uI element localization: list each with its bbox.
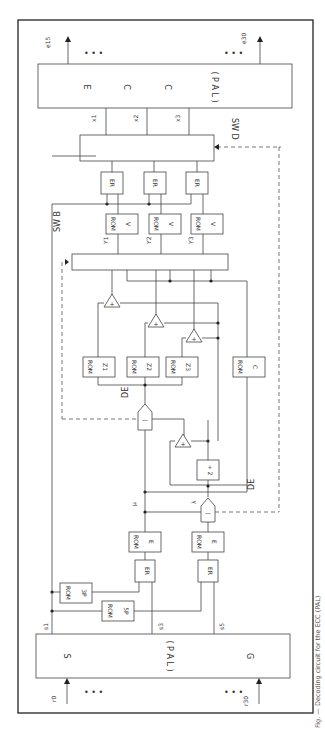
rom-5p: ROM5P: [102, 601, 134, 621]
output-ellipsis-right: • • •: [224, 49, 243, 58]
svg-text:÷ 2: ÷ 2: [207, 465, 214, 476]
svg-text:5P: 5P: [123, 607, 130, 615]
svg-text:ER: ER: [109, 179, 116, 187]
sg-pal-paren: ( P A L ): [165, 640, 174, 671]
svg-text:ROM: ROM: [65, 586, 72, 600]
x3-label: x3: [174, 114, 181, 122]
svg-text:ROM: ROM: [110, 217, 117, 231]
diagram-frame: [18, 20, 313, 713]
de-label-lower: DE: [247, 479, 256, 490]
svg-text:E: E: [211, 540, 218, 544]
swb-label: SW B: [53, 211, 62, 232]
rom-e-1: ROME: [129, 532, 161, 552]
svg-text:+: +: [110, 300, 115, 307]
svg-text:ROM: ROM: [237, 360, 244, 374]
er-block-s5: ER: [198, 560, 218, 582]
s5-label: s5: [218, 623, 225, 630]
de-label-upper: DE: [121, 387, 130, 398]
svg-text:+: +: [181, 440, 186, 447]
rom-z3: ROMZ3: [166, 357, 198, 377]
output-ellipsis-left: • • •: [84, 49, 103, 58]
mu-label: μ: [130, 502, 138, 506]
lambda-label: λ: [190, 500, 197, 504]
rom-v-1: ROMV: [106, 214, 138, 234]
svg-text:ROM: ROM: [196, 535, 203, 549]
ecc-letter-c2: C: [163, 84, 172, 90]
adder-3: +: [186, 329, 202, 342]
sg-letter-s: S: [62, 653, 71, 658]
ecc-pal-paren: ( P A L ): [210, 71, 219, 102]
svg-text:ER: ER: [144, 567, 151, 575]
diagram-canvas: E C C ( P A L ) e15 e30 • • • • • • x1 x…: [0, 0, 325, 733]
sg-letter-g: G: [245, 653, 254, 659]
de-subtractor-upper: —: [138, 404, 152, 430]
rom-v-2: ROMV: [149, 214, 181, 234]
output-e15: e15: [44, 36, 51, 48]
s1-label: s1: [42, 623, 49, 630]
input-r0: r0: [50, 696, 57, 702]
svg-text:ROM: ROM: [131, 360, 138, 374]
rom-v-3: ROMV: [191, 214, 223, 234]
er-block-3: ER: [186, 172, 208, 194]
svg-text:ROM: ROM: [87, 360, 94, 374]
switch-d: [80, 135, 214, 161]
er-block-2: ER: [144, 172, 166, 194]
x1-label: x1: [90, 114, 97, 122]
y3-label: Y3: [187, 236, 194, 245]
y1-label: Y1: [102, 236, 109, 245]
adder-1: +: [104, 294, 120, 307]
input-ellipsis-right: • • •: [224, 688, 243, 697]
adder-4: +: [175, 434, 191, 447]
output-e30: e30: [240, 32, 247, 44]
rom-c: ROMC: [233, 357, 265, 377]
switch-b: [72, 254, 228, 270]
er-block-s3: ER: [135, 560, 155, 582]
svg-text:3P: 3P: [81, 589, 88, 597]
svg-text:Z2: Z2: [146, 363, 153, 371]
svg-text:ER: ER: [152, 179, 159, 187]
svg-text:+: +: [192, 335, 197, 342]
svg-text:Z1: Z1: [102, 363, 109, 371]
svg-text:ER: ER: [207, 567, 214, 575]
de-subtractor-lower: —: [201, 498, 215, 522]
svg-text:+: +: [154, 320, 159, 327]
swd-label: SW D: [230, 118, 239, 140]
divide-by-2-block: ÷ 2: [197, 460, 219, 480]
er-block-1: ER: [101, 172, 123, 194]
ecc-letter-e: E: [82, 84, 91, 89]
ecc-letter-c1: C: [122, 84, 131, 90]
svg-text:ROM: ROM: [133, 535, 140, 549]
rom-3p: ROM3P: [60, 583, 92, 603]
rom-e-2: ROME: [192, 532, 224, 552]
y2-label: Y2: [145, 236, 152, 245]
svg-text:—: —: [205, 509, 211, 516]
svg-text:ROM: ROM: [170, 360, 177, 374]
adder-2: +: [148, 314, 164, 327]
x2-label: x2: [132, 114, 139, 122]
svg-text:ROM: ROM: [107, 604, 114, 618]
svg-text:—: —: [142, 416, 148, 423]
svg-text:ROM: ROM: [195, 217, 202, 231]
rom-z2: ROMZ2: [127, 357, 159, 377]
s3-label: s3: [157, 623, 164, 630]
input-ellipsis-left: • • •: [84, 688, 103, 697]
input-r30: r30: [242, 696, 249, 706]
svg-text:C: C: [252, 365, 259, 369]
svg-text:ROM: ROM: [153, 217, 160, 231]
svg-text:ER: ER: [194, 179, 201, 187]
rom-z1: ROMZ1: [83, 357, 115, 377]
figure-caption: Fig. — Decoding circuit for the ECC (PAL…: [314, 596, 322, 728]
svg-text:Z3: Z3: [185, 363, 192, 371]
svg-text:E: E: [148, 540, 155, 544]
